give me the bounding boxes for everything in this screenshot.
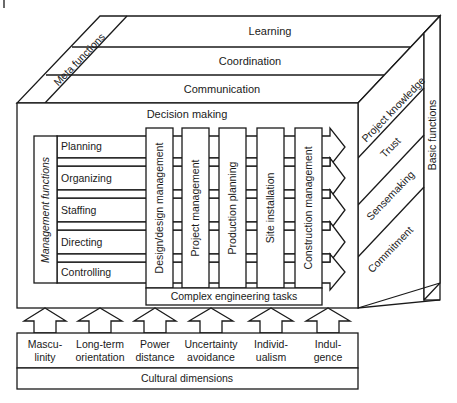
- basic-functions-label: Basic functions: [426, 100, 438, 171]
- row-label-controlling: Controlling: [61, 266, 111, 278]
- row-label-organizing: Organizing: [61, 172, 112, 184]
- dim-power-line2: distance: [135, 351, 174, 363]
- dim-individualism-line2: ualism: [256, 351, 287, 363]
- dim-individualism-line1: Individ-: [254, 338, 288, 350]
- arrow-up-icon: [189, 308, 233, 333]
- arrow-up-icon: [78, 308, 122, 333]
- dim-long-term-line1: Long-term: [76, 338, 124, 350]
- layer-coordination: Coordination: [219, 55, 281, 67]
- arrow-up-icon: [306, 308, 350, 333]
- cultural-dimensions-title: Cultural dimensions: [141, 372, 233, 384]
- column-label-project-management: Project management: [189, 159, 201, 256]
- arrow-up-icon: [249, 308, 293, 333]
- column-label-construction-management: Construction management: [302, 146, 314, 269]
- management-functions-label: Management functions: [39, 156, 51, 263]
- layer-communication: Communication: [184, 83, 260, 95]
- dim-indulgence-line1: Indul-: [315, 338, 342, 350]
- dim-indulgence-line2: gence: [314, 351, 343, 363]
- row-label-staffing: Staffing: [61, 204, 97, 216]
- column-label-design: Design/design management: [153, 143, 165, 274]
- dim-long-term-line2: orientation: [75, 351, 124, 363]
- dim-masculinity-line2: linity: [34, 351, 56, 363]
- complex-engineering-tasks-label: Complex engineering tasks: [171, 290, 298, 302]
- arrow-up-icon: [24, 308, 66, 333]
- row-label-planning: Planning: [61, 140, 102, 152]
- cultural-arrows: [24, 308, 350, 333]
- cultural-framework-diagram: Learning Coordination Communication Meta…: [0, 0, 457, 403]
- dim-masculinity-line1: Mascu-: [28, 338, 63, 350]
- column-label-production-planning: Production planning: [226, 161, 238, 254]
- layer-learning: Learning: [249, 25, 292, 37]
- arrow-up-icon: [134, 308, 176, 333]
- decision-making-title: Decision making: [147, 108, 228, 120]
- dim-uncertainty-line2: avoidance: [187, 351, 235, 363]
- row-label-directing: Directing: [61, 236, 103, 248]
- dim-uncertainty-line1: Uncertainty: [184, 338, 238, 350]
- column-label-site-installation: Site installation: [264, 173, 276, 244]
- dim-power-line1: Power: [140, 338, 170, 350]
